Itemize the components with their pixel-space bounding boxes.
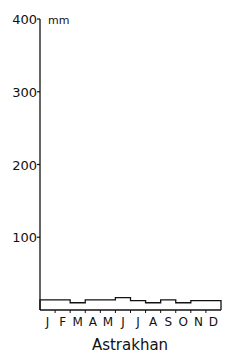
x-tick-label: D — [209, 315, 218, 329]
x-tick-label: N — [194, 315, 203, 329]
x-axis: JFMAMJJASOND — [40, 310, 221, 329]
x-tick-label: M — [73, 315, 83, 329]
y-tick-label: 200 — [12, 158, 37, 173]
chart-title: Astrakhan — [92, 336, 168, 354]
x-tick-label: J — [120, 315, 125, 329]
precipitation-chart: 100200300400 JFMAMJJASOND mm Astrakhan — [0, 0, 234, 357]
x-tick-label: S — [164, 315, 172, 329]
x-tick-label: J — [45, 315, 50, 329]
y-tick-label: 400 — [12, 12, 37, 27]
y-tick-label: 300 — [12, 85, 37, 100]
x-tick-label: M — [103, 315, 113, 329]
x-tick-label: J — [135, 315, 140, 329]
y-axis-unit-label: mm — [48, 14, 69, 27]
precipitation-step-line — [40, 298, 221, 310]
x-tick-label: O — [179, 315, 188, 329]
y-tick-label: 100 — [12, 230, 37, 245]
x-tick-label: A — [149, 315, 158, 329]
x-tick-label: F — [59, 315, 66, 329]
x-tick-label: A — [89, 315, 98, 329]
y-axis: 100200300400 — [12, 12, 40, 310]
plot-area — [40, 298, 221, 310]
